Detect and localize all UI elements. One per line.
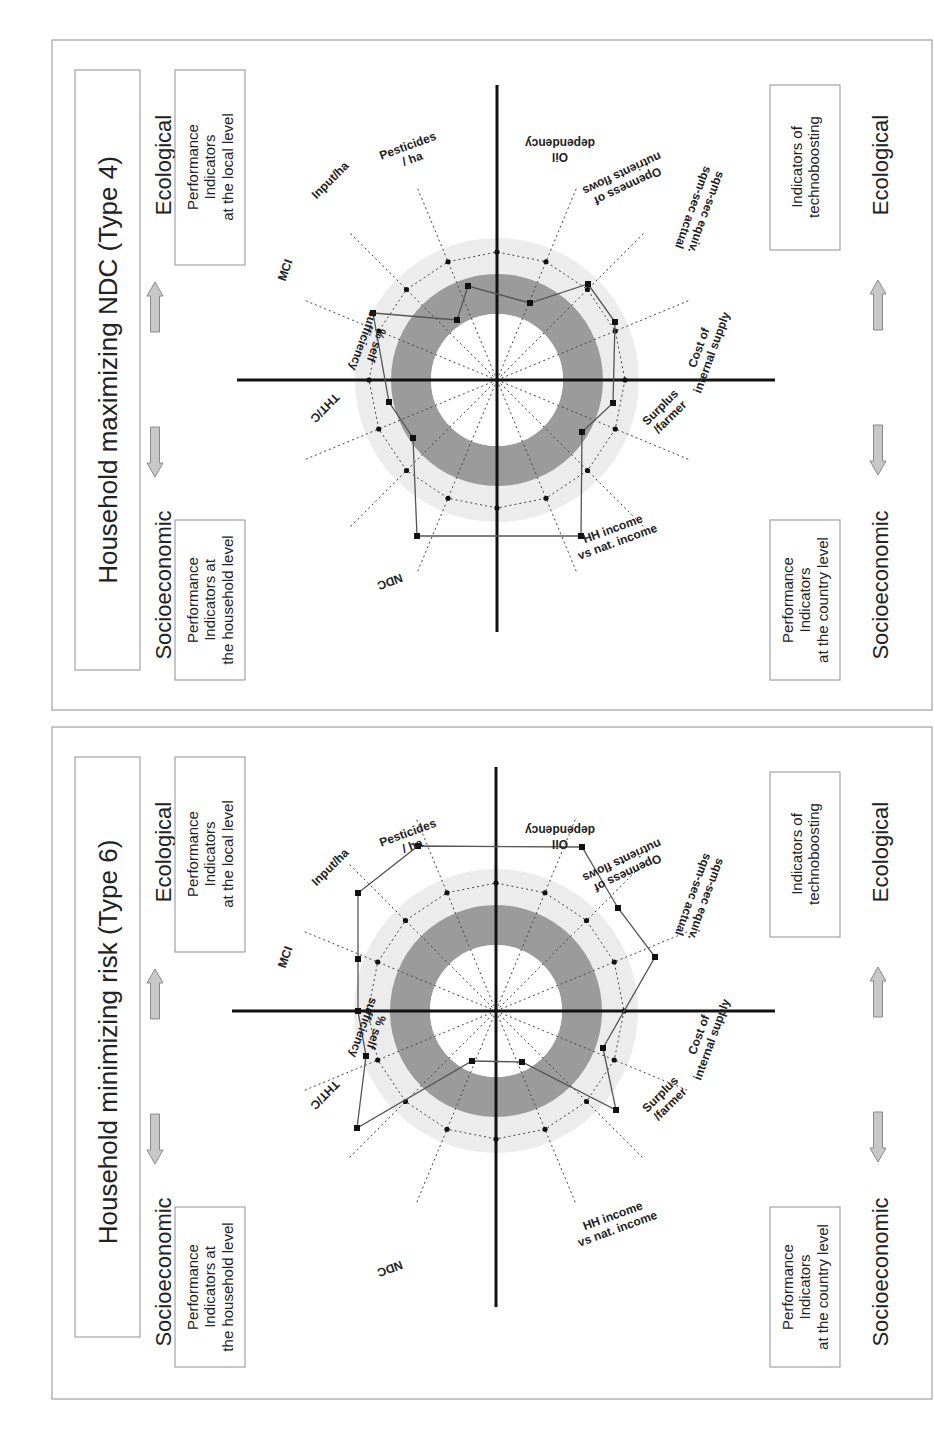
data-point-marker — [386, 399, 392, 405]
reference-marker — [585, 287, 590, 292]
data-point-marker — [355, 956, 361, 962]
reference-marker — [613, 426, 618, 431]
reference-marker — [543, 496, 548, 501]
reference-marker — [542, 890, 547, 895]
data-point-marker — [652, 954, 658, 960]
data-point-marker — [410, 435, 416, 441]
category-socioeconomic-household: Socioeconomic — [151, 510, 176, 659]
reference-marker — [445, 259, 450, 264]
data-point-marker — [612, 319, 618, 325]
figure-caption-faint — [918, 1140, 924, 1430]
figure-canvas: Household maximizing NDC (Type 4)Socioec… — [0, 0, 934, 1439]
data-point-marker — [613, 1107, 619, 1113]
data-point-marker — [363, 1053, 369, 1059]
reference-marker — [444, 890, 449, 895]
box-technoboosting-text: Indicators oftechnoboosting — [788, 803, 822, 905]
data-point-marker — [355, 1008, 361, 1014]
data-point-marker — [579, 429, 585, 435]
reference-marker — [584, 1099, 589, 1104]
data-point-marker — [615, 905, 621, 911]
panel-title: Household minimizing risk (Type 6) — [93, 840, 123, 1245]
data-point-marker — [579, 844, 585, 850]
data-point-marker — [465, 283, 471, 289]
reference-marker — [404, 287, 409, 292]
data-point-marker — [454, 317, 460, 323]
reference-marker — [585, 468, 590, 473]
category-ecological-technoboosting: Ecological — [868, 115, 893, 215]
data-point-marker — [610, 400, 616, 406]
reference-marker — [445, 496, 450, 501]
data-point-marker — [354, 1125, 360, 1131]
reference-marker — [375, 959, 380, 964]
reference-marker — [404, 468, 409, 473]
data-point-marker — [527, 300, 533, 306]
data-point-marker — [600, 1045, 606, 1051]
data-point-marker — [585, 281, 591, 287]
category-socioeconomic-country: Socioeconomic — [868, 1197, 893, 1346]
data-point-marker — [355, 890, 361, 896]
data-point-marker — [414, 533, 420, 539]
reference-marker — [612, 959, 617, 964]
category-socioeconomic-country: Socioeconomic — [868, 510, 893, 659]
panel-title: Household maximizing NDC (Type 4) — [93, 156, 123, 584]
reference-marker — [376, 426, 381, 431]
category-ecological-local: Ecological — [151, 115, 176, 215]
reference-marker — [375, 1057, 380, 1062]
reference-marker — [543, 259, 548, 264]
box-technoboosting-text: Indicators oftechnoboosting — [788, 116, 822, 218]
reference-marker — [444, 1127, 449, 1132]
reference-marker — [403, 918, 408, 923]
data-point-marker — [469, 1058, 475, 1064]
reference-marker — [584, 918, 589, 923]
category-ecological-local: Ecological — [151, 802, 176, 902]
reference-marker — [542, 1127, 547, 1132]
category-socioeconomic-household: Socioeconomic — [151, 1197, 176, 1346]
reference-marker — [612, 1057, 617, 1062]
category-ecological-technoboosting: Ecological — [868, 802, 893, 902]
data-point-marker — [519, 1059, 525, 1065]
